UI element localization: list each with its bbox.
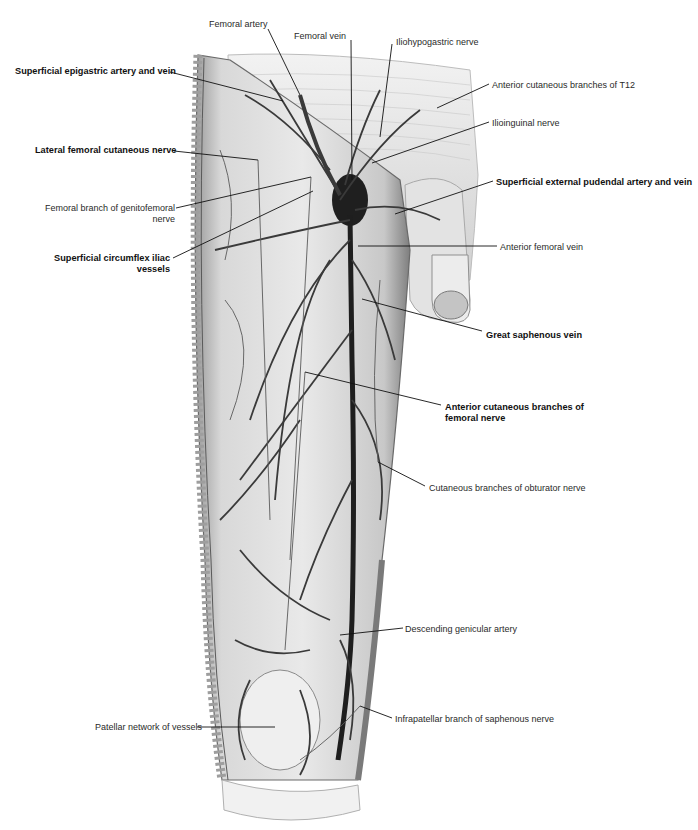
thigh-outline xyxy=(195,55,410,780)
label-cutaneous-obturator: Cutaneous branches of obturator nerve xyxy=(429,483,586,494)
label-great-saphenous-vein: Great saphenous vein xyxy=(486,330,582,341)
label-superficial-epigastric: Superficial epigastric artery and vein xyxy=(15,66,176,77)
label-superficial-external-pudendal: Superficial external pudendal artery and… xyxy=(496,177,692,188)
label-lateral-femoral-cutaneous: Lateral femoral cutaneous nerve xyxy=(35,145,176,156)
label-femoral-artery: Femoral artery xyxy=(209,19,268,30)
thigh-illustration xyxy=(0,0,698,830)
anatomy-figure: Femoral arteryFemoral veinIliohypogastri… xyxy=(0,0,698,830)
label-superficial-circumflex-iliac: Superficial circumflex iliac vessels xyxy=(20,253,170,275)
label-femoral-branch-genitofemoral: Femoral branch of genitofemoral nerve xyxy=(20,203,175,225)
label-infrapatellar-saphenous: Infrapatellar branch of saphenous nerve xyxy=(395,714,554,725)
label-femoral-vein: Femoral vein xyxy=(294,31,346,42)
skin-cuff-bottom xyxy=(222,780,360,820)
label-anterior-cutaneous-t12: Anterior cutaneous branches of T12 xyxy=(492,80,635,91)
label-patellar-network: Patellar network of vessels xyxy=(95,722,202,733)
label-iliohypogastric-nerve: Iliohypogastric nerve xyxy=(396,37,479,48)
label-anterior-cutaneous-femoral: Anterior cutaneous branches of femoral n… xyxy=(445,402,585,424)
label-anterior-femoral-vein: Anterior femoral vein xyxy=(500,242,583,253)
label-ilioinguinal-nerve: Ilioinguinal nerve xyxy=(492,118,560,129)
label-descending-genicular: Descending genicular artery xyxy=(405,624,517,635)
